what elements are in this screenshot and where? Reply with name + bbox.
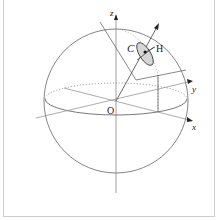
radius-vector-arrow [154, 23, 159, 30]
z-axis-label: z [109, 8, 114, 18]
x-axis-label: x [191, 122, 196, 132]
point-h-label: H [156, 43, 163, 54]
point-c-label: C [127, 42, 135, 54]
origin-label: O [107, 105, 114, 116]
y-axis-label: y [191, 84, 196, 94]
projection-line [136, 70, 186, 80]
sphere-diagram: z y x O C H [0, 0, 217, 221]
z-axis-arrow [114, 14, 118, 20]
